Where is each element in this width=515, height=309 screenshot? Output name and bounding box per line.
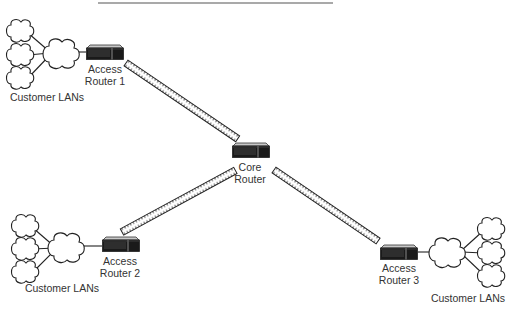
access-router-2-label: Access Router 2 [97, 255, 143, 279]
core-router-label: Core Router [227, 161, 273, 185]
label-line: Customer LANs [17, 282, 107, 294]
lans-2-label: Customer LANs [17, 282, 107, 294]
label-line: Access [376, 262, 422, 274]
lan-cloud-icon [12, 215, 39, 238]
label-line: Core [227, 161, 273, 173]
label-line: Customer LANs [423, 292, 513, 304]
lan-cloud-icon [7, 67, 34, 90]
label-line: Router 1 [82, 75, 128, 87]
label-line: Router 2 [97, 267, 143, 279]
core-router-icon[interactable] [233, 143, 270, 158]
aggregation-cloud-icon [48, 233, 84, 263]
label-line: Router 3 [376, 274, 422, 286]
access-router-1-icon[interactable] [87, 45, 124, 60]
label-line: Customer LANs [2, 91, 92, 103]
lan-cloud-icon [7, 44, 34, 67]
access-router-3-label: Access Router 3 [376, 262, 422, 286]
label-line: Access [82, 63, 128, 75]
lans-3-label: Customer LANs [423, 292, 513, 304]
lan-cloud-icon [7, 20, 34, 43]
label-line: Access [97, 255, 143, 267]
link-core-ar3 [272, 167, 380, 244]
lan-cloud-icon [478, 242, 505, 265]
lans-1-label: Customer LANs [2, 91, 92, 103]
access-router-3-icon[interactable] [381, 245, 418, 260]
access-router-1-label: Access Router 1 [82, 63, 128, 87]
label-line: Router [227, 173, 273, 185]
lan-cloud-icon [478, 218, 505, 241]
link-ar2-core [120, 167, 237, 235]
network-diagram [0, 0, 515, 309]
aggregation-cloud-icon [429, 238, 465, 268]
lan-cloud-icon [12, 261, 39, 284]
lan-cloud-icon [478, 265, 505, 288]
aggregation-cloud-icon [43, 39, 79, 69]
lan-cloud-icon [12, 238, 39, 261]
access-router-2-icon[interactable] [103, 237, 140, 252]
link-ar1-core [124, 60, 240, 142]
